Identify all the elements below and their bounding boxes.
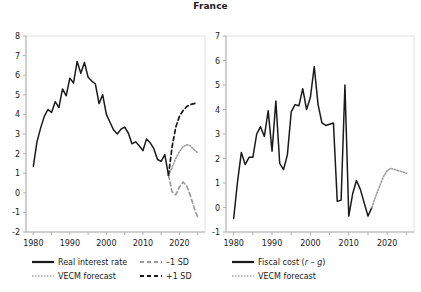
legend-label: VECM forecast (258, 272, 316, 281)
x-tick-label: 2020 (377, 239, 397, 248)
x-tick-label: 2010 (133, 239, 153, 248)
x-tick-label: 1980 (23, 239, 43, 248)
x-tick-label: 1990 (60, 239, 80, 248)
y-tick-label: 0 (15, 189, 20, 198)
y-tick-label: -1 (212, 228, 220, 237)
series-line (168, 145, 197, 175)
y-tick-label: 0 (215, 204, 220, 213)
series-line (372, 168, 407, 207)
x-tick-label: 2000 (96, 239, 116, 248)
series-line (168, 175, 197, 217)
y-tick-label: 7 (15, 52, 20, 61)
y-tick-label: 5 (215, 81, 220, 90)
y-tick-label: -1 (12, 208, 20, 217)
x-tick-label: 1990 (262, 239, 282, 248)
x-tick-label: 2010 (339, 239, 359, 248)
legend-label: Real interest rate (58, 258, 127, 267)
y-tick-label: 2 (15, 150, 20, 159)
y-tick-label: 1 (15, 169, 20, 178)
series-line (33, 61, 168, 175)
y-tick-label: 6 (215, 57, 220, 66)
legend-label: Fiscal cost (r – g) (258, 258, 325, 267)
x-tick-label: 2020 (169, 239, 189, 248)
y-tick-label: 1 (215, 179, 220, 188)
panel-left: -2-101234567819801990200020102020 (12, 32, 205, 248)
x-tick-label: 2000 (300, 239, 320, 248)
y-tick-label: 7 (215, 32, 220, 41)
y-tick-label: -2 (12, 228, 20, 237)
y-tick-label: 3 (215, 130, 220, 139)
plot-frame (26, 36, 205, 232)
y-tick-label: 4 (15, 110, 20, 119)
legend-right: Fiscal cost (r – g)VECM forecast (232, 258, 325, 281)
legend-label: –1 SD (166, 258, 189, 267)
plot-frame (226, 36, 414, 232)
legend-left: Real interest rateVECM forecast–1 SD+1 S… (32, 258, 192, 281)
y-tick-label: 4 (215, 106, 220, 115)
y-tick-label: 5 (15, 91, 20, 100)
legend-label: +1 SD (166, 272, 192, 281)
figure-france: France -2-101234567819801990200020102020… (0, 0, 421, 292)
x-tick-label: 1980 (223, 239, 243, 248)
series-line (234, 67, 372, 219)
panel-right: -10123456719801990200020102020 (212, 32, 414, 248)
y-tick-label: 3 (15, 130, 20, 139)
y-tick-label: 2 (215, 155, 220, 164)
chart-svg: -2-101234567819801990200020102020-101234… (0, 0, 421, 292)
y-tick-label: 6 (15, 71, 20, 80)
y-tick-label: 8 (15, 32, 20, 41)
legend-label: VECM forecast (58, 272, 116, 281)
